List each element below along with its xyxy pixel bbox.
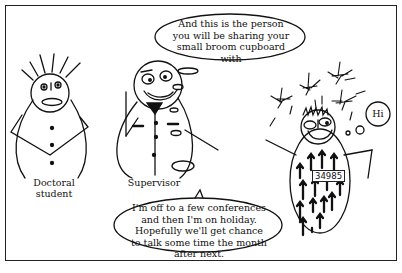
hi-speech-text: Hi: [368, 108, 388, 120]
doctoral-student-figure: [11, 54, 88, 178]
top-speech-text: And this is the person you will be shari…: [172, 18, 290, 64]
id-number-badge: 34985: [312, 170, 345, 182]
new-student-figure: [266, 62, 390, 235]
doctoral-student-label: Doctoral student: [29, 177, 79, 199]
bottom-speech-text: I'm off to a few conferences and then I'…: [129, 202, 269, 260]
supervisor-figure: [117, 61, 218, 178]
supervisor-label: Supervisor: [124, 177, 184, 188]
